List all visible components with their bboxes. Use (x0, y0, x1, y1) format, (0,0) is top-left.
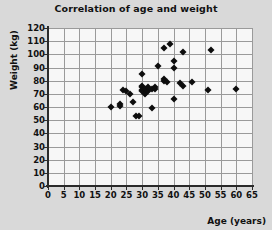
x-tick-label: 5 (61, 190, 67, 200)
grid-line-horizontal (48, 28, 252, 29)
grid-line-horizontal (48, 68, 252, 69)
grid-line-horizontal (48, 94, 252, 95)
grid-line-vertical (252, 28, 253, 186)
x-axis-line (46, 185, 254, 187)
x-tick-label: 30 (136, 190, 148, 200)
x-tick-label: 40 (168, 190, 180, 200)
grid-line-horizontal (48, 41, 252, 42)
y-tick-label: 120 (27, 23, 45, 33)
grid-line-horizontal (48, 133, 252, 134)
grid-line-horizontal (48, 54, 252, 55)
y-axis-line (47, 26, 49, 188)
y-axis-label: Weight (kg) (9, 20, 19, 100)
grid-line-horizontal (48, 120, 252, 121)
x-tick-label: 25 (121, 190, 133, 200)
plot-area: 0102030405060708090100110120 05101520253… (48, 28, 252, 186)
x-tick-label: 35 (152, 190, 164, 200)
x-tick-label: 0 (45, 190, 51, 200)
y-tick-label: 110 (27, 36, 45, 46)
x-tick-label: 55 (215, 190, 227, 200)
grid-line-horizontal (48, 81, 252, 82)
x-tick-label: 60 (230, 190, 242, 200)
grid-line-horizontal (48, 173, 252, 174)
x-axis-label: Age (years) (0, 216, 266, 226)
x-tick-label: 50 (199, 190, 211, 200)
y-tick-label: 100 (27, 49, 45, 59)
grid-line-horizontal (48, 147, 252, 148)
grid-line-horizontal (48, 160, 252, 161)
chart-title: Correlation of age and weight (0, 3, 272, 14)
x-tick-label: 15 (89, 190, 101, 200)
chart-page: Correlation of age and weight Weight (kg… (0, 0, 272, 230)
x-tick-label: 20 (105, 190, 117, 200)
x-tick-label: 10 (73, 190, 85, 200)
x-tick-label: 45 (183, 190, 195, 200)
x-tick-label: 65 (246, 190, 258, 200)
